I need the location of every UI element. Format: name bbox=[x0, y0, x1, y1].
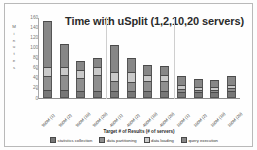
y-axis-title-letter: e bbox=[13, 58, 15, 65]
y-axis-title-letter: n bbox=[13, 38, 15, 45]
group-separator bbox=[106, 18, 107, 99]
x-axis-tick-label: 900M (10) bbox=[75, 111, 92, 128]
x-axis-tick-label: 400M (10) bbox=[142, 111, 159, 128]
bar-slot bbox=[89, 17, 106, 98]
bar-slot bbox=[140, 17, 157, 98]
y-axis-title-letter: u bbox=[13, 44, 15, 51]
bar-segment bbox=[143, 65, 152, 75]
legend-label: query execution bbox=[188, 138, 218, 143]
bar-segment bbox=[127, 91, 136, 98]
bar-segment bbox=[110, 91, 119, 98]
legend-item[interactable]: statistics collection bbox=[50, 137, 92, 143]
bar-slot bbox=[207, 17, 224, 98]
x-axis-tick-label: 900M (20) bbox=[91, 111, 108, 128]
table-row[interactable] bbox=[143, 65, 152, 98]
x-axis-tick-label: 400M (20) bbox=[159, 111, 176, 128]
bar-segment bbox=[210, 80, 219, 87]
legend-item[interactable]: query execution bbox=[181, 137, 218, 143]
bar-segment bbox=[76, 61, 85, 70]
legend-item[interactable]: data partitioning bbox=[99, 137, 136, 143]
table-row[interactable] bbox=[194, 79, 203, 98]
y-axis-title-letter: t bbox=[13, 51, 14, 58]
legend-item[interactable]: data loading bbox=[144, 137, 174, 143]
bar-segment bbox=[127, 72, 136, 82]
bar-segment bbox=[60, 75, 69, 91]
bar-segment bbox=[43, 76, 52, 90]
table-row[interactable] bbox=[43, 21, 52, 98]
bar-segment bbox=[110, 81, 119, 91]
plot-area bbox=[38, 18, 240, 99]
table-row[interactable] bbox=[110, 45, 119, 98]
bar-segment bbox=[76, 78, 85, 92]
x-axis-tick-label: 900M (1) bbox=[41, 113, 56, 128]
bar-segment bbox=[60, 67, 69, 75]
x-axis-tick-label: 400M (2) bbox=[125, 113, 140, 128]
bar-slot bbox=[39, 17, 56, 98]
y-axis: 020406080100120140160 bbox=[20, 18, 38, 99]
bar-segment bbox=[60, 44, 69, 66]
x-axis-tick-label: 100M (1) bbox=[176, 113, 191, 128]
x-axis-tick-label: 900M (2) bbox=[58, 113, 73, 128]
x-axis-tick-label: 100M (10) bbox=[209, 111, 226, 128]
bar-segment bbox=[43, 90, 52, 98]
y-axis-title: Minutes bbox=[10, 24, 18, 72]
bar-slot bbox=[173, 17, 190, 98]
bar-segment bbox=[227, 91, 236, 98]
bar-segment bbox=[177, 76, 186, 85]
chart-screenshot: Time with uSplit (1,2,10,20 servers) Min… bbox=[0, 0, 257, 150]
bar-segment bbox=[143, 75, 152, 82]
group-separator bbox=[174, 18, 175, 99]
bar-segment bbox=[143, 91, 152, 98]
table-row[interactable] bbox=[160, 66, 169, 98]
bar-segment bbox=[93, 67, 102, 75]
bar-slot bbox=[223, 17, 240, 98]
bar-segment bbox=[110, 45, 119, 72]
table-row[interactable] bbox=[227, 76, 236, 98]
bar-slot bbox=[123, 17, 140, 98]
bar-slot bbox=[106, 17, 123, 98]
bar-segment bbox=[194, 92, 203, 98]
chart-frame: Time with uSplit (1,2,10,20 servers) Min… bbox=[4, 3, 253, 147]
chart-legend: statistics collectiondata partitioningda… bbox=[25, 137, 243, 143]
bar-segment bbox=[110, 72, 119, 81]
table-row[interactable] bbox=[60, 44, 69, 98]
bar-segment bbox=[60, 90, 69, 98]
y-axis-title-letter: s bbox=[13, 65, 15, 72]
bar-segment bbox=[76, 91, 85, 98]
bar-segment bbox=[210, 92, 219, 98]
bar-segment bbox=[43, 67, 52, 77]
x-axis-labels: 900M (1)900M (2)900M (10)900M (20)400M (… bbox=[38, 100, 240, 128]
table-row[interactable] bbox=[93, 58, 102, 98]
bar-slot bbox=[190, 17, 207, 98]
legend-swatch-icon bbox=[181, 137, 187, 143]
table-row[interactable] bbox=[127, 58, 136, 98]
legend-label: data partitioning bbox=[107, 138, 137, 143]
bar-segment bbox=[43, 21, 52, 67]
bar-segment bbox=[227, 76, 236, 85]
bar-segment bbox=[93, 91, 102, 98]
bar-slot bbox=[156, 17, 173, 98]
bar-segment bbox=[160, 81, 169, 91]
bar-segment bbox=[160, 66, 169, 75]
bar-segment bbox=[177, 92, 186, 98]
table-row[interactable] bbox=[210, 80, 219, 98]
x-axis-tick-label: 400M (1) bbox=[108, 113, 123, 128]
bar-segment bbox=[76, 70, 85, 78]
legend-label: data loading bbox=[151, 138, 174, 143]
x-axis-tick-label: 100M (2) bbox=[192, 113, 207, 128]
legend-swatch-icon bbox=[50, 137, 56, 143]
y-axis-title-letter: M bbox=[12, 24, 16, 31]
bar-slot bbox=[56, 17, 73, 98]
legend-swatch-icon bbox=[99, 137, 105, 143]
table-row[interactable] bbox=[177, 76, 186, 98]
x-axis-title: Target # of Results (# of servers) bbox=[38, 129, 240, 134]
x-axis-tick-label: 100M (20) bbox=[226, 111, 243, 128]
legend-swatch-icon bbox=[144, 137, 150, 143]
bar-segment bbox=[93, 58, 102, 67]
bar-series-container bbox=[39, 17, 240, 98]
y-axis-title-letter: i bbox=[14, 31, 15, 38]
bar-segment bbox=[93, 75, 102, 91]
bar-segment bbox=[143, 81, 152, 91]
table-row[interactable] bbox=[76, 61, 85, 98]
bar-segment bbox=[127, 82, 136, 92]
